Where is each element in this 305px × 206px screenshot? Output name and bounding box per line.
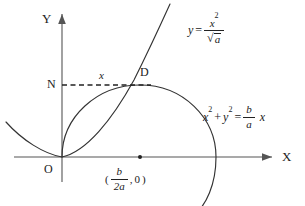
- center-fraction: b 2a: [111, 166, 128, 192]
- circle-center-dot: [138, 155, 142, 159]
- center-numerator: b: [113, 166, 125, 179]
- radical-icon: √ a: [207, 32, 221, 45]
- center-close-paren: ): [142, 173, 146, 185]
- center-point-label: ( b 2a , 0 ): [105, 166, 146, 192]
- circle-term1: x2: [203, 109, 212, 125]
- parabola-numerator: x2: [207, 16, 222, 30]
- x-axis-arrowhead: [262, 153, 272, 161]
- origin-label: O: [44, 163, 53, 175]
- circle-trailing-variable: x: [260, 110, 265, 125]
- circle-plus: +: [214, 110, 221, 125]
- x-axis-label: X: [282, 150, 291, 163]
- parabola-fraction: x2 √ a: [204, 16, 224, 45]
- point-n-label: N: [47, 78, 56, 90]
- circle-term2: y2: [223, 109, 232, 125]
- y-axis-label: Y: [42, 12, 51, 25]
- center-comma: ,: [130, 173, 133, 185]
- center-denominator: 2a: [111, 180, 128, 193]
- parabola-curve: [6, 4, 170, 157]
- parabola-equals: =: [195, 23, 202, 38]
- center-zero: 0: [134, 173, 140, 185]
- diagram-canvas: Y X O N x D y = x2 √ a x2 + y2 =: [0, 0, 305, 206]
- circle-denominator: a: [243, 118, 255, 131]
- circle-equals: =: [234, 110, 241, 125]
- point-d-label: D: [140, 66, 149, 78]
- y-axis-arrowhead: [58, 14, 66, 24]
- parabola-denominator: √ a: [204, 31, 224, 45]
- parabola-equation: y = x2 √ a: [188, 16, 224, 45]
- circle-equation: x2 + y2 = b a x: [203, 104, 265, 130]
- center-open-paren: (: [105, 173, 109, 185]
- parabola-lhs: y: [188, 23, 193, 38]
- segment-length-label: x: [99, 70, 104, 81]
- circle-fraction: b a: [243, 104, 255, 130]
- circle-numerator: b: [243, 104, 255, 117]
